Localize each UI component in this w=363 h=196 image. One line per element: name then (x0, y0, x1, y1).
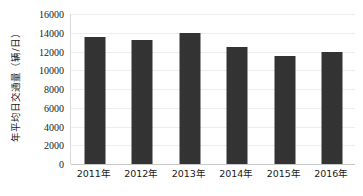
bars-layer (71, 14, 355, 164)
y-axis-tick-label: 10000 (39, 65, 64, 76)
bar[interactable] (179, 33, 200, 164)
bar-slot (214, 14, 262, 164)
bar-chart-figure: 年平均日交通量（辆/日） 020004000600080001000012000… (0, 0, 363, 196)
bar[interactable] (274, 56, 295, 164)
x-axis-tick-labels: 2011年2012年2013年2014年2015年2016年 (70, 166, 355, 186)
bar[interactable] (227, 47, 248, 164)
y-axis-tick-label: 8000 (44, 84, 64, 95)
bar-slot (166, 14, 214, 164)
y-axis-tick-label: 14000 (39, 27, 64, 38)
bar-slot (309, 14, 357, 164)
x-axis-tick-label: 2012年 (124, 166, 158, 180)
y-axis-title-label: 年平均日交通量（辆/日） (8, 28, 22, 141)
gridline (71, 164, 355, 165)
bar-slot (71, 14, 119, 164)
y-axis-tick-label: 0 (59, 159, 64, 170)
bar-slot (261, 14, 309, 164)
y-axis-title: 年平均日交通量（辆/日） (0, 0, 30, 170)
bar[interactable] (84, 37, 105, 164)
y-axis-tick-label: 6000 (44, 102, 64, 113)
bar[interactable] (322, 52, 343, 164)
x-axis-tick-label: 2011年 (77, 166, 111, 180)
x-axis-tick-label: 2015年 (267, 166, 301, 180)
y-axis-tick-label: 12000 (39, 46, 64, 57)
x-axis-tick-label: 2014年 (219, 166, 253, 180)
y-axis-tick-labels: 0200040006000800010000120001400016000 (28, 14, 68, 164)
y-axis-tick-label: 16000 (39, 9, 64, 20)
bar-slot (119, 14, 167, 164)
y-axis-tick-label: 4000 (44, 121, 64, 132)
plot-area (70, 14, 355, 164)
bar[interactable] (132, 40, 153, 164)
y-axis-tick-label: 2000 (44, 140, 64, 151)
x-axis-tick-label: 2016年 (314, 166, 348, 180)
x-axis-tick-label: 2013年 (172, 166, 206, 180)
